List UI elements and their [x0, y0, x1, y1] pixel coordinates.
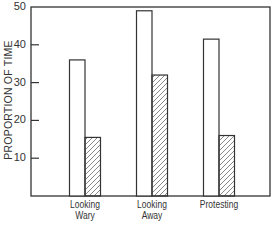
x-category-label-line: Protesting [194, 199, 245, 210]
chart-canvas [0, 0, 275, 225]
bars-group [70, 11, 235, 196]
bar-open-protesting [204, 39, 220, 196]
x-category-label-line: Looking [60, 199, 111, 210]
y-tick-label: 40 [6, 38, 26, 50]
bar-hatched-looking-wary [85, 137, 101, 196]
y-axis-ticks [31, 45, 39, 158]
bar-open-looking-wary [70, 60, 86, 196]
y-tick-label: 10 [6, 151, 26, 163]
x-category-label: Protesting [194, 199, 245, 210]
bar-hatched-looking-away [152, 75, 168, 196]
y-tick-label: 30 [6, 76, 26, 88]
bar-hatched-protesting [219, 136, 235, 196]
y-axis-label: PROPORTION OF TIME [2, 40, 14, 159]
y-tick-label: 20 [6, 113, 26, 125]
x-category-label: LookingWary [60, 199, 111, 221]
x-category-label-line: Wary [60, 210, 111, 221]
bar-chart: PROPORTION OF TIME 1020304050 LookingWar… [0, 0, 275, 225]
bar-open-looking-away [137, 11, 153, 196]
x-category-label: LookingAway [127, 199, 178, 221]
y-tick-label: 50 [6, 0, 26, 12]
x-category-label-line: Away [127, 210, 178, 221]
x-category-label-line: Looking [127, 199, 178, 210]
